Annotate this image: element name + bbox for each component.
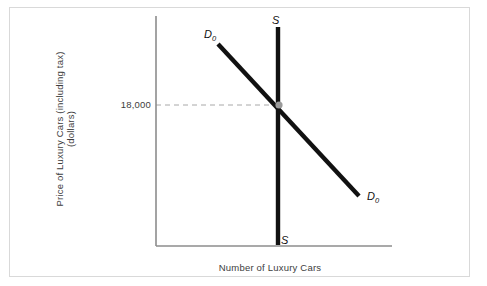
- y-axis-title-line1: Price of Luxury Cars (including tax): [54, 51, 65, 206]
- supply-curve-label-lower: S: [281, 234, 288, 246]
- y-axis-title: Price of Luxury Cars (including tax) (do…: [54, 39, 76, 219]
- y-axis-title-line2: (dollars): [65, 39, 76, 219]
- supply-curve-label-upper: S: [272, 14, 279, 26]
- demand-curve-label-lower: D0: [367, 190, 379, 205]
- demand-curve-label-upper: D0: [204, 28, 216, 43]
- demand-label-subscript-upper: 0: [212, 34, 216, 43]
- demand-label-subscript-lower: 0: [375, 196, 379, 205]
- y-axis-tick-label-18000: 18,000: [99, 99, 151, 110]
- demand-label-letter-upper: D: [204, 28, 212, 40]
- equilibrium-point-marker: [275, 101, 282, 108]
- x-axis-title: Number of Luxury Cars: [155, 262, 385, 273]
- demand-curve: [218, 44, 359, 196]
- figure-container: 18,000 Price of Luxury Cars (including t…: [0, 0, 487, 286]
- demand-label-letter-lower: D: [367, 190, 375, 202]
